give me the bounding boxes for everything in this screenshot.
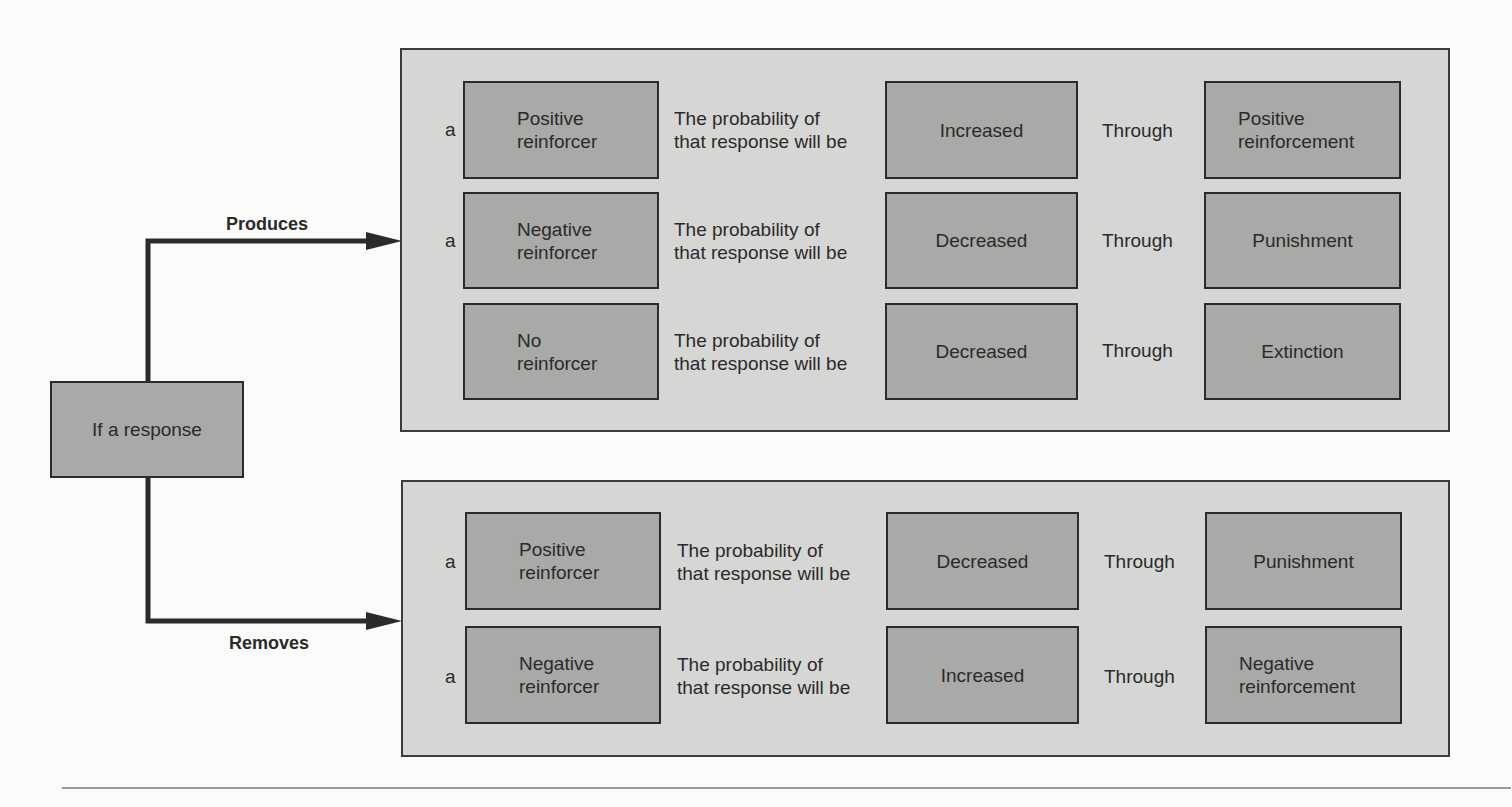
source-box-label: If a response	[92, 418, 202, 441]
bottom-divider	[62, 787, 1511, 789]
effect-label: Decreased	[937, 550, 1029, 573]
effect-box: Decreased	[885, 192, 1078, 289]
process-box: Extinction	[1204, 303, 1401, 400]
process-label: Punishment	[1253, 550, 1353, 573]
stimulus-box: Negative reinforcer	[463, 192, 659, 289]
process-label: Negative reinforcement	[1239, 652, 1355, 698]
source-box: If a response	[50, 381, 244, 478]
through-label: Through	[1104, 550, 1175, 573]
probability-phrase: The probability of that response will be	[677, 539, 850, 585]
through-label: Through	[1102, 119, 1173, 142]
removes-arrow-line	[148, 477, 372, 621]
probability-phrase: The probability of that response will be	[674, 218, 847, 264]
stimulus-box: Positive reinforcer	[465, 512, 661, 610]
branch-label-removes: Removes	[229, 632, 309, 655]
effect-label: Increased	[941, 664, 1024, 687]
stimulus-label: Positive reinforcer	[519, 538, 599, 584]
process-box: Punishment	[1205, 512, 1402, 610]
stimulus-box: Negative reinforcer	[465, 626, 661, 724]
effect-label: Decreased	[936, 229, 1028, 252]
probability-phrase: The probability of that response will be	[674, 107, 847, 153]
effect-box: Increased	[886, 626, 1079, 724]
process-box: Positive reinforcement	[1204, 81, 1401, 179]
stimulus-label: Negative reinforcer	[519, 652, 599, 698]
process-box: Negative reinforcement	[1205, 626, 1402, 724]
through-label: Through	[1102, 229, 1173, 252]
branch-label-produces: Produces	[226, 213, 308, 236]
stimulus-label: Positive reinforcer	[517, 107, 597, 153]
row-article: a	[445, 118, 456, 141]
stimulus-box: No reinforcer	[463, 303, 659, 400]
process-label: Punishment	[1252, 229, 1352, 252]
probability-phrase: The probability of that response will be	[674, 329, 847, 375]
row-article: a	[445, 229, 456, 252]
through-label: Through	[1102, 339, 1173, 362]
row-article: a	[445, 550, 456, 573]
stimulus-label: No reinforcer	[517, 329, 597, 375]
process-label: Extinction	[1261, 340, 1343, 363]
removes-arrowhead-icon	[366, 612, 402, 630]
effect-box: Decreased	[885, 303, 1078, 400]
row-article: a	[445, 665, 456, 688]
produces-arrowhead-icon	[366, 232, 402, 250]
stimulus-box: Positive reinforcer	[463, 81, 659, 179]
effect-box: Increased	[885, 81, 1078, 179]
process-box: Punishment	[1204, 192, 1401, 289]
through-label: Through	[1104, 665, 1175, 688]
produces-arrow-line	[148, 241, 372, 382]
probability-phrase: The probability of that response will be	[677, 653, 850, 699]
effect-label: Decreased	[936, 340, 1028, 363]
stimulus-label: Negative reinforcer	[517, 218, 597, 264]
effect-box: Decreased	[886, 512, 1079, 610]
process-label: Positive reinforcement	[1238, 107, 1354, 153]
effect-label: Increased	[940, 119, 1023, 142]
